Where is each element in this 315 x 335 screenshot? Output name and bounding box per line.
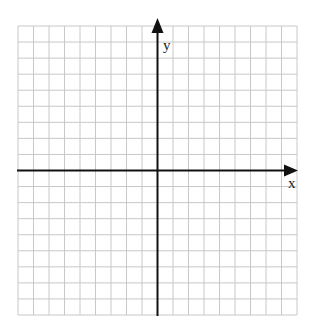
x-axis-label: x [288, 175, 296, 191]
y-axis-label: y [163, 37, 171, 53]
coordinate-plane: x y [0, 0, 315, 335]
